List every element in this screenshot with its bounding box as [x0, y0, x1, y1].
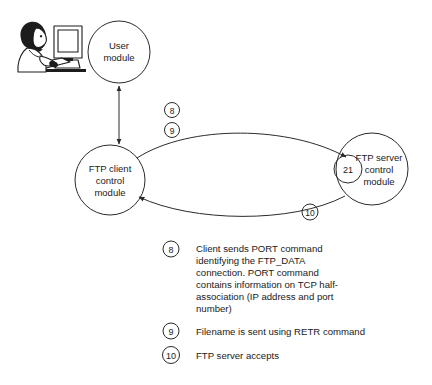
edge-marker-8: 8 [165, 103, 180, 118]
legend-item-10: 10 FTP server accepts [163, 347, 280, 364]
legend-item-9: 9 Filename is sent using RETR command [163, 323, 365, 339]
legend-9-line-1: Filename is sent using RETR command [196, 326, 365, 337]
user-module-label-line1: User [109, 40, 129, 51]
legend-8-number: 8 [168, 245, 173, 255]
node-ftp-server-control-module: 21 FTP server control module [334, 133, 408, 205]
ftp-client-label-line1: FTP client [89, 163, 132, 174]
legend-8-line-6: number) [196, 303, 232, 314]
legend-8-line-1: Client sends PORT command [196, 243, 323, 254]
ftp-control-flow-diagram-page: User module FTP client control module 8 … [0, 0, 432, 385]
legend-item-8: 8 Client sends PORT command identifying … [163, 241, 338, 314]
ftp-server-label-line1: FTP server [356, 152, 403, 163]
legend-8-line-4: contains information on TCP half- [196, 279, 338, 290]
legend: 8 Client sends PORT command identifying … [163, 241, 366, 364]
user-at-computer-icon [18, 22, 86, 72]
legend-10-line-1: FTP server accepts [196, 350, 279, 361]
ftp-server-label-line2: control [365, 164, 394, 175]
legend-8-line-3: connection. PORT command [196, 267, 319, 278]
node-user-module: User module [88, 21, 150, 83]
marker-9-number: 9 [170, 126, 175, 136]
edge-marker-10: 10 [302, 204, 318, 220]
diagram-canvas: User module FTP client control module 8 … [0, 0, 432, 385]
ftp-server-port-label: 21 [343, 165, 353, 175]
legend-9-number: 9 [168, 327, 173, 337]
marker-8-number: 8 [170, 106, 175, 116]
ftp-server-label-line3: module [363, 176, 394, 187]
ftp-client-label-line2: control [96, 175, 125, 186]
legend-8-line-5: association (IP address and port [196, 291, 334, 302]
edge-marker-9: 9 [165, 123, 180, 138]
legend-8-line-2: identifying the FTP_DATA [196, 255, 306, 266]
legend-10-number: 10 [166, 351, 176, 361]
ftp-client-label-line3: module [94, 187, 125, 198]
user-module-label-line2: module [103, 52, 134, 63]
marker-10-number: 10 [305, 208, 315, 218]
node-ftp-client-control-module: FTP client control module [75, 145, 145, 215]
